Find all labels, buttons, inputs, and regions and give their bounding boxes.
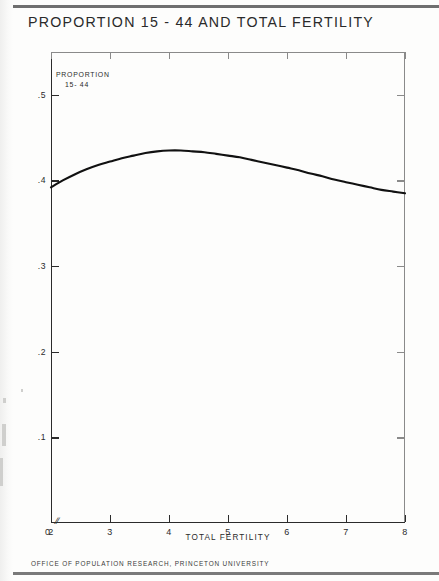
x-tick-label-6: 6 — [284, 527, 289, 537]
x-tick-label-3: 3 — [107, 527, 112, 537]
page-canvas: PROPORTION 15 - 44 AND TOTAL FERTILITY P… — [0, 0, 439, 581]
x-tick-label-5: 5 — [225, 527, 230, 537]
scan-edge-artifact — [0, 0, 13, 581]
plot-area: .1.2.3.4.5 2345678 — [51, 52, 405, 523]
scan-speck — [21, 389, 23, 392]
fertility-curve-chart — [51, 52, 405, 523]
x-tick-label-2: 2 — [48, 527, 53, 537]
x-tick-8 — [405, 515, 406, 522]
x-tick-top-8 — [405, 52, 406, 59]
x-tick-label-4: 4 — [166, 527, 171, 537]
x-tick-label-7: 7 — [343, 527, 348, 537]
y-tick-label-2: .2 — [38, 347, 46, 357]
page-title: PROPORTION 15 - 44 AND TOTAL FERTILITY — [28, 14, 374, 30]
x-tick-label-8: 8 — [402, 527, 407, 537]
y-tick-label-5: .5 — [38, 90, 46, 100]
scan-speck — [2, 424, 6, 446]
source-footer: OFFICE OF POPULATION RESEARCH, PRINCETON… — [31, 560, 269, 567]
footer-rule — [13, 572, 439, 575]
y-tick-label-1: .1 — [38, 432, 46, 442]
series-line-proportion-15-44 — [51, 150, 405, 193]
y-tick-label-3: .3 — [38, 261, 46, 271]
scan-speck — [0, 458, 3, 486]
scan-speck — [3, 398, 6, 403]
y-tick-label-4: .4 — [38, 175, 46, 185]
header-rule — [13, 5, 439, 8]
